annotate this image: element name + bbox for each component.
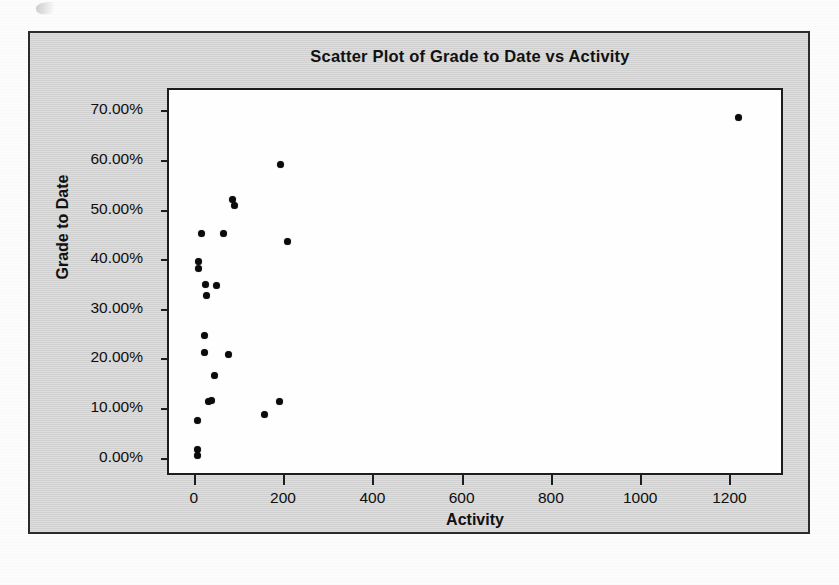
y-axis-tick-label: 60.00% — [57, 150, 143, 168]
scatter-point — [735, 114, 742, 121]
y-axis-tick-label: 70.00% — [57, 100, 143, 118]
scatter-point — [277, 161, 284, 168]
x-axis-tick — [372, 475, 374, 485]
scatter-point — [276, 398, 283, 405]
x-axis-title: Activity — [167, 511, 783, 529]
scatter-point — [211, 372, 218, 379]
x-axis-tick — [194, 475, 196, 485]
scatter-point — [198, 230, 205, 237]
scatter-point — [213, 282, 220, 289]
y-axis-tick-label: 10.00% — [57, 398, 143, 416]
x-axis-tick — [462, 475, 464, 485]
x-axis-tick — [551, 475, 553, 485]
scatter-point — [261, 411, 268, 418]
scatter-point — [225, 351, 232, 358]
y-axis-tick-label: 20.00% — [57, 348, 143, 366]
x-axis-tick-label: 600 — [427, 489, 497, 507]
x-axis-tick-label: 200 — [248, 489, 318, 507]
scatter-point — [284, 238, 291, 245]
scatter-point — [208, 397, 215, 404]
scatter-point — [202, 281, 209, 288]
x-axis-tick — [729, 475, 731, 485]
scatter-points-layer — [169, 90, 781, 473]
plot-area — [167, 88, 783, 475]
x-axis-tick-label: 1200 — [694, 489, 764, 507]
scatter-point — [194, 417, 201, 424]
y-axis-tick-label: 50.00% — [57, 200, 143, 218]
y-axis-tick-label: 30.00% — [57, 299, 143, 317]
chart-frame: Scatter Plot of Grade to Date vs Activit… — [28, 31, 810, 534]
scatter-point — [201, 349, 208, 356]
x-axis-tick-label: 800 — [516, 489, 586, 507]
scatter-point — [195, 258, 202, 265]
scatter-point — [220, 230, 227, 237]
scatter-point — [231, 202, 238, 209]
x-axis-tick — [640, 475, 642, 485]
scatter-point — [201, 332, 208, 339]
chart-title: Scatter Plot of Grade to Date vs Activit… — [160, 47, 780, 66]
scatter-point — [195, 265, 202, 272]
scatter-point — [203, 292, 210, 299]
scatter-point — [194, 452, 201, 459]
y-axis-tick-label: 0.00% — [57, 448, 143, 466]
y-axis-tick-label: 40.00% — [57, 249, 143, 267]
x-axis-tick-label: 0 — [159, 489, 229, 507]
x-axis-tick — [283, 475, 285, 485]
x-axis-tick-label: 1000 — [605, 489, 675, 507]
x-axis-tick-label: 400 — [337, 489, 407, 507]
